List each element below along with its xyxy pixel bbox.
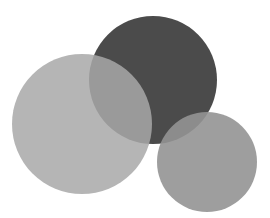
small-right-circle <box>157 112 257 212</box>
large-light-circle <box>12 54 152 194</box>
